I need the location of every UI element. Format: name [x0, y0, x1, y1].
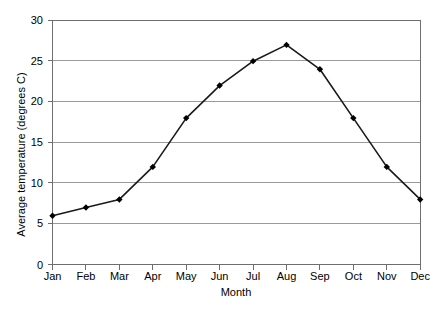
x-axis-title: Month — [52, 286, 420, 298]
chart-container: 30 25 20 15 10 5 0 Jan Feb Mar Apr May J… — [0, 0, 440, 309]
y-axis-title: Average temperature (degrees C) — [8, 0, 34, 309]
x-tick-label-dec: Dec — [400, 270, 440, 282]
x-axis-tick-labels: Jan Feb Mar Apr May Jun Jul Aug Sep Oct … — [0, 0, 440, 309]
